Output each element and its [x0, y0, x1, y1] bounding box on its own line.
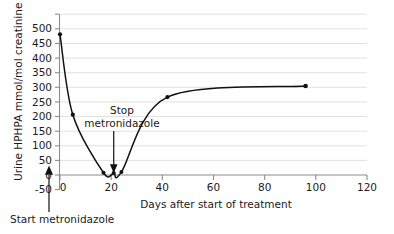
stop-annotation-line1: Stop	[110, 104, 134, 116]
stop-annotation-line2: metronidazole	[84, 117, 159, 129]
x-axis-title: Days after start of treatment	[140, 198, 292, 210]
series-line	[60, 34, 306, 177]
x-tick-label: 20	[105, 181, 118, 193]
chart-figure: -50 0 50 100 150 200 250 300 350 400 450…	[0, 0, 394, 234]
chart-svg: -50 0 50 100 150 200 250 300 350 400 450…	[0, 0, 394, 234]
data-point	[165, 95, 169, 99]
x-tick-label: 100	[306, 181, 326, 193]
data-point	[119, 170, 123, 174]
y-tick-label: 300	[32, 81, 52, 93]
start-annotation-label: Start metronidazole	[10, 213, 114, 225]
y-tick-label: 150	[32, 125, 52, 137]
y-tick-label: 450	[32, 37, 52, 49]
y-tick-label: 50	[39, 154, 52, 166]
x-tick-label: 60	[207, 181, 220, 193]
x-tick-labels: 0 20 40 60 80 100 120	[60, 181, 377, 193]
y-axis-title: Urine HPHPA mmol/mol creatinine	[12, 3, 24, 181]
y-tick-label: 250	[32, 96, 52, 108]
x-tick-label: 80	[258, 181, 271, 193]
data-series-urine-hphpa	[58, 32, 308, 177]
data-point	[58, 32, 62, 36]
annotation-start-metronidazole: Start metronidazole	[10, 165, 114, 225]
y-tick-label: 500	[32, 22, 52, 34]
data-point	[71, 113, 75, 117]
x-tick-label: 40	[156, 181, 169, 193]
y-tick-label: 350	[32, 66, 52, 78]
x-tick-label: 120	[357, 181, 377, 193]
y-axis	[55, 14, 60, 189]
y-tick-label: 100	[32, 139, 52, 151]
x-tick-label: 0	[60, 181, 67, 193]
data-point	[303, 84, 308, 89]
y-tick-label: 200	[32, 110, 52, 122]
y-tick-label: 400	[32, 52, 52, 64]
gridlines	[60, 14, 367, 160]
data-point	[101, 171, 105, 175]
